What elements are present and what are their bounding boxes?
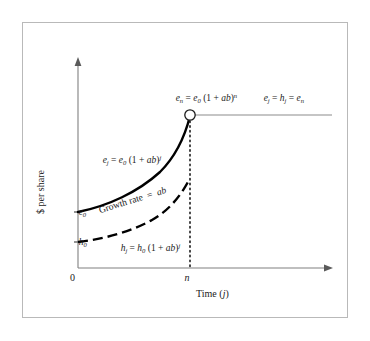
x-tick-label-n: n <box>185 272 190 283</box>
growth-rate-chart: en = e0 (1 + ab)n ej = hj = en ej = e0 (… <box>0 0 370 341</box>
y-axis-title: $ per share <box>35 170 46 214</box>
x-axis-title: Time (j) <box>179 288 242 300</box>
figure-container: en = e0 (1 + ab)n ej = hj = en ej = e0 (… <box>0 0 370 341</box>
en-marker-icon <box>185 110 195 120</box>
x-tick-label-origin: 0 <box>70 272 75 283</box>
